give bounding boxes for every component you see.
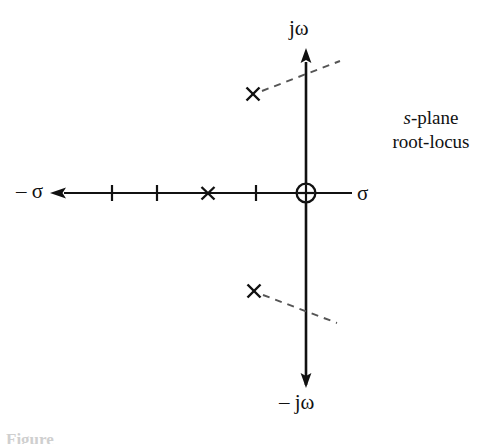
root-locus-plot [0,0,493,446]
locus-branch-lower [263,295,337,323]
figure-caption-stub: Figure [6,430,196,444]
imaginary-axis-up-arrowhead [301,48,312,63]
imaginary-axis-positive-label: jω [289,18,309,39]
pole-marker-lower-complex [248,285,261,298]
s-plane-root-locus-figure: jω – jω – σ σ s-plane root-locus Figure [0,0,493,446]
real-axis-negative-label: – σ [16,181,43,202]
origin-zero-marker [297,184,316,203]
annotation-s-symbol: s [404,107,411,128]
annotation-plane-text: -plane [411,107,458,128]
real-axis-positive-label: σ [357,183,368,204]
s-plane-annotation: s-plane root-locus [372,106,490,155]
imaginary-axis [301,48,312,388]
pole-marker-upper-complex [247,88,260,101]
locus-branch-upper [262,61,340,91]
imaginary-axis-negative-label: – jω [279,392,314,413]
real-axis-left-arrowhead [50,188,66,199]
annotation-line-s-plane: s-plane [372,106,490,130]
annotation-line-root-locus: root-locus [372,130,490,154]
